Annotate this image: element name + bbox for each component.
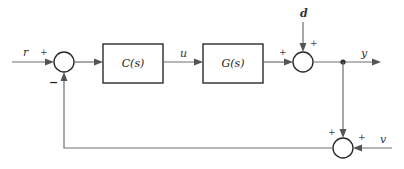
signal-label-u: u — [180, 47, 187, 60]
sign-plus-d: + — [310, 38, 318, 48]
arrowhead-icon — [353, 145, 362, 152]
signal-label-r: r — [23, 46, 29, 59]
summing-junction-noise — [333, 138, 353, 158]
feedback-diagram: r + − C(s) u G(s) + d + y + v + — [0, 0, 404, 169]
arrowhead-icon — [284, 59, 293, 66]
summing-junction-error — [54, 52, 74, 72]
controller-label: C(s) — [122, 57, 145, 70]
summing-junction-disturbance — [293, 52, 313, 72]
sign-plus-v: + — [358, 132, 366, 142]
sign-plus-plant: + — [279, 47, 287, 57]
signal-label-y: y — [360, 47, 368, 60]
arrowhead-icon — [372, 59, 381, 66]
sign-plus-y: + — [328, 127, 336, 137]
plant-label: G(s) — [221, 57, 244, 70]
arrowhead-icon — [61, 72, 68, 81]
arrowhead-icon — [194, 59, 203, 66]
signal-label-v: v — [380, 133, 387, 146]
arrowhead-icon — [340, 129, 347, 138]
arrowhead-icon — [94, 59, 103, 66]
signal-label-d: d — [300, 7, 308, 20]
edge-feedback — [64, 74, 333, 148]
sign-plus-r: + — [40, 47, 48, 57]
arrowhead-icon — [45, 59, 54, 66]
sign-minus-feedback: − — [49, 76, 58, 89]
arrowhead-icon — [300, 43, 307, 52]
